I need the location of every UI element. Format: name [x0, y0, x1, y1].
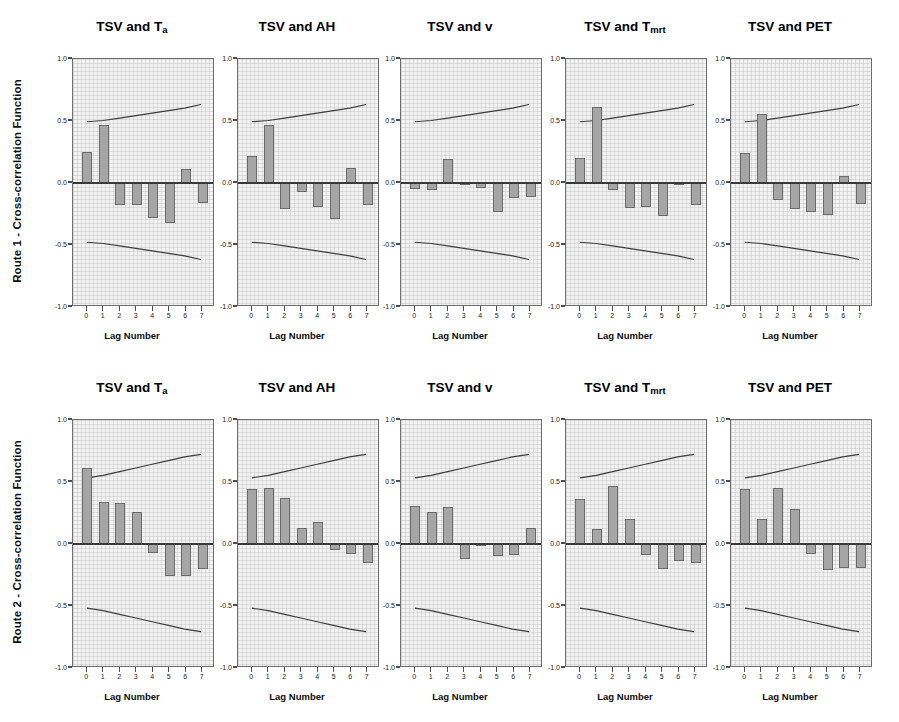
zero-baseline: [731, 182, 871, 183]
x-tick: 2: [770, 306, 784, 319]
x-tick: 3: [622, 667, 636, 680]
y-tick-label: -0.5: [220, 602, 232, 609]
x-tick-label: 2: [770, 673, 784, 680]
x-tick-label: 6: [671, 673, 685, 680]
panel-title: TSV and PET: [708, 20, 872, 34]
x-tick: 5: [327, 667, 341, 680]
y-tick: 1.0: [715, 53, 730, 63]
x-tick-mark: [859, 667, 860, 672]
bar: [181, 169, 191, 183]
upper-confidence-line: [415, 105, 529, 122]
y-tick: -1.0: [383, 662, 400, 672]
x-tick: 4: [803, 306, 817, 319]
upper-confidence-line: [87, 454, 201, 477]
y-tick: -1.0: [220, 662, 237, 672]
y-tick: -1.0: [713, 301, 730, 311]
x-tick-mark: [661, 667, 662, 672]
x-tick-mark: [168, 306, 169, 311]
x-axis-label: Lag Number: [50, 330, 214, 341]
upper-confidence-line: [252, 105, 366, 122]
zero-baseline: [401, 182, 541, 183]
y-tick: -0.5: [548, 600, 565, 610]
x-tick-mark: [810, 306, 811, 311]
y-tick: 0.0: [715, 177, 730, 187]
y-tick-label: -1.0: [713, 303, 725, 310]
y-tick-label: -0.5: [55, 602, 67, 609]
y-tick-label: 1.0: [57, 55, 67, 62]
x-tick-label: 4: [145, 312, 159, 319]
x-tick-label: 7: [195, 673, 209, 680]
x-axis-label: Lag Number: [708, 330, 872, 341]
y-tick-label: 1.0: [550, 55, 560, 62]
x-tick-label: 2: [440, 312, 454, 319]
y-tick-label: 0.0: [57, 179, 67, 186]
x-tick-mark: [102, 667, 103, 672]
y-tick-label: 1.0: [385, 416, 395, 423]
lower-confidence-line: [415, 608, 529, 631]
bar: [297, 528, 307, 544]
bar: [757, 519, 767, 544]
x-tick: 6: [178, 306, 192, 319]
y-axis-label-text: Route 2 - Cross-correlation Function: [11, 440, 23, 644]
x-tick-label: 7: [688, 312, 702, 319]
upper-confidence-line: [415, 454, 529, 477]
x-tick-mark: [447, 306, 448, 311]
x-tick-mark: [529, 306, 530, 311]
zero-baseline: [401, 543, 541, 544]
panel-row-1: Route 1 - Cross-correlation FunctionTSV …: [0, 0, 899, 361]
y-tick-label: -0.5: [548, 241, 560, 248]
y-tick: -0.5: [55, 239, 72, 249]
bar: [641, 544, 651, 555]
panel-title-main: TSV and v: [427, 19, 492, 34]
bar: [115, 503, 125, 544]
x-tick-mark: [86, 667, 87, 672]
x-tick-label: 7: [523, 312, 537, 319]
y-tick-label: 1.0: [222, 55, 232, 62]
x-tick: 4: [638, 667, 652, 680]
y-tick-label: 1.0: [57, 416, 67, 423]
x-tick-mark: [496, 667, 497, 672]
y-tick: 0.5: [715, 476, 730, 486]
x-tick: 1: [754, 306, 768, 319]
bar: [198, 183, 208, 203]
y-tick-label: -1.0: [383, 303, 395, 310]
y-tick-label: -0.5: [383, 602, 395, 609]
x-tick-mark: [843, 667, 844, 672]
x-tick-label: 5: [162, 312, 176, 319]
bar: [823, 183, 833, 215]
x-tick: 1: [261, 667, 275, 680]
y-tick-label: 0.5: [222, 478, 232, 485]
bar: [132, 183, 142, 205]
y-tick: -0.5: [713, 239, 730, 249]
chart-panel: TSV and AH1.00.50.0-0.5-1.001234567Lag N…: [215, 0, 379, 361]
x-tick-label: 1: [589, 312, 603, 319]
panel-title: TSV and Tmrt: [543, 20, 707, 34]
panel-title: TSV and v: [378, 20, 542, 34]
x-tick-mark: [678, 667, 679, 672]
y-tick: 0.0: [715, 538, 730, 548]
x-tick-label: 6: [506, 312, 520, 319]
bar: [526, 528, 536, 544]
x-tick-mark: [414, 667, 415, 672]
plot-area: [72, 58, 214, 306]
chart-panel: TSV and Ta1.00.50.0-0.5-1.001234567Lag N…: [50, 361, 214, 722]
y-tick-label: 1.0: [222, 416, 232, 423]
y-tick-label: -1.0: [220, 303, 232, 310]
x-tick-mark: [628, 667, 629, 672]
x-tick-label: 3: [787, 312, 801, 319]
x-tick-label: 3: [457, 673, 471, 680]
x-tick: 3: [622, 306, 636, 319]
x-tick-label: 2: [605, 673, 619, 680]
x-tick-label: 6: [178, 673, 192, 680]
zero-baseline: [238, 543, 378, 544]
y-tick: 0.0: [385, 538, 400, 548]
x-tick: 7: [688, 306, 702, 319]
x-tick: 0: [572, 667, 586, 680]
panel-title-subscript: mrt: [650, 385, 665, 396]
zero-baseline: [566, 543, 706, 544]
y-tick-label: 0.0: [715, 179, 725, 186]
bar: [132, 512, 142, 544]
bar: [740, 489, 750, 544]
x-axis-label: Lag Number: [543, 330, 707, 341]
y-tick-label: 0.0: [222, 540, 232, 547]
